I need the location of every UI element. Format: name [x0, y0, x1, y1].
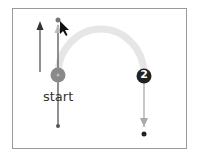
start-label: start	[43, 89, 73, 104]
path-diagram	[0, 0, 197, 155]
path-arc	[58, 29, 144, 75]
mouse-cursor-icon	[60, 21, 69, 36]
down-arrow-icon	[140, 118, 148, 127]
start-top-dot	[56, 18, 61, 23]
end-dot	[142, 132, 147, 137]
step-2-badge-label: 2	[139, 68, 149, 81]
start-bottom-dot	[56, 124, 60, 128]
up-arrow-icon	[37, 21, 44, 72]
